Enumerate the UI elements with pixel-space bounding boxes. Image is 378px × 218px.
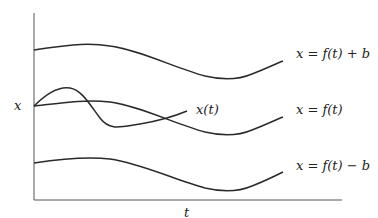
trajectory-curve — [34, 88, 187, 127]
upper-bound-curve — [34, 44, 283, 78]
lower-curve-label: x = f(t) − b — [296, 158, 370, 173]
trajectory-label: x(t) — [196, 102, 219, 117]
center-curve — [34, 101, 283, 135]
y-axis-label: x — [14, 98, 22, 113]
diagram-canvas: x t x = f(t) + b x = f(t) x = f(t) − b x… — [0, 0, 378, 218]
upper-curve-label: x = f(t) + b — [296, 46, 370, 61]
lower-bound-curve — [34, 158, 283, 191]
x-axis-label: t — [184, 205, 190, 218]
center-curve-label: x = f(t) — [296, 102, 343, 117]
